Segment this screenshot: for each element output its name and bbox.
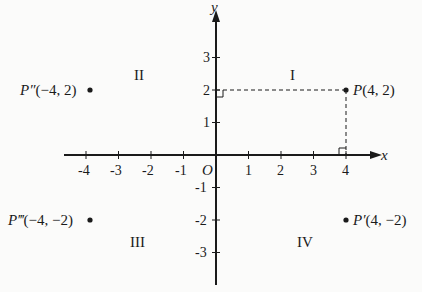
x-tick-label: 4 — [342, 163, 349, 178]
quadrant-3-label: III — [130, 234, 145, 250]
projection-lines — [216, 90, 346, 155]
coordinate-plane-svg: x y O -4 -3 -2 -1 1 2 3 4 3 2 1 -1 -2 -3… — [0, 0, 422, 292]
x-tick-label: 3 — [310, 163, 317, 178]
coordinate-plane-diagram: x y O -4 -3 -2 -1 1 2 3 4 3 2 1 -1 -2 -3… — [0, 0, 422, 292]
x-tick-label: 2 — [277, 163, 284, 178]
y-tick-label: -1 — [195, 180, 207, 195]
point-p-double-prime-label: P″(−4, 2) — [19, 82, 76, 99]
point-p — [343, 87, 348, 92]
point-p-double-prime — [87, 87, 92, 92]
point-p-prime-label: P′(4, −2) — [352, 212, 406, 229]
x-tick-label: 1 — [245, 163, 252, 178]
y-axis-label: y — [209, 0, 218, 15]
point-p-prime — [343, 217, 348, 222]
origin-label: O — [202, 162, 213, 178]
x-tick-label: -1 — [175, 163, 187, 178]
quadrant-1-label: I — [290, 67, 295, 83]
y-tick-label: 1 — [203, 115, 210, 130]
x-axis — [64, 151, 382, 159]
point-p-triple-prime-label: P‴(−4, −2) — [7, 212, 73, 229]
right-angle-marker-x — [339, 148, 346, 155]
x-tick-label: -2 — [142, 163, 154, 178]
x-tick-label: -4 — [78, 163, 90, 178]
x-tick-label: -3 — [110, 163, 122, 178]
point-p-triple-prime — [87, 217, 92, 222]
y-tick-label: -2 — [195, 213, 207, 228]
y-tick-label: 2 — [203, 83, 210, 98]
right-angle-marker-y — [216, 90, 223, 97]
quadrant-4-label: IV — [297, 234, 313, 250]
y-tick-label: 3 — [203, 50, 210, 65]
y-axis — [212, 10, 220, 285]
x-axis-label: x — [380, 147, 388, 163]
point-p-label: P(4, 2) — [352, 82, 395, 99]
quadrant-2-label: II — [134, 67, 144, 83]
y-tick-label: -3 — [195, 245, 207, 260]
